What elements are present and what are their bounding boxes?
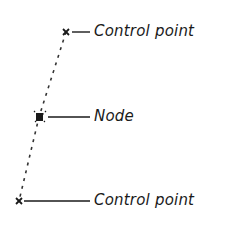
control-point-bottom-marker: [16, 198, 22, 204]
label-control-point-top: Control point: [94, 24, 194, 39]
label-control-point-bottom: Control point: [94, 193, 194, 208]
label-node: Node: [94, 109, 134, 124]
node-marker: [34, 111, 46, 123]
